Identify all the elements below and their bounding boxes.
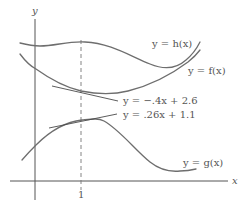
- x-axis-label: x: [232, 175, 238, 186]
- function-graph-figure: y x 1 y = h(x) y = f(x) y = −.4x + 2.6 y…: [0, 0, 246, 208]
- label-f: y = f(x): [187, 65, 226, 76]
- label-tangent-f: y = −.4x + 2.6: [122, 95, 198, 106]
- label-g: y = g(x): [182, 157, 223, 168]
- y-axis-label: y: [31, 5, 38, 16]
- tick-label-1: 1: [78, 189, 84, 200]
- curve-f: [20, 50, 200, 94]
- curve-g: [22, 119, 196, 171]
- tangent-line-g: [49, 114, 117, 128]
- label-h: y = h(x): [151, 38, 192, 49]
- label-tangent-g: y = .26x + 1.1: [122, 109, 196, 120]
